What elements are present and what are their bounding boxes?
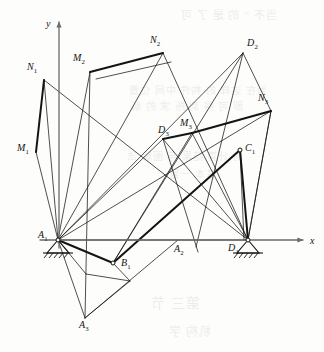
point-label-subscript: 1: [34, 67, 37, 74]
point-label-subscript: 1: [44, 235, 47, 242]
point-label-n1: N1: [27, 62, 37, 72]
ground-support-D1-hatch: [244, 253, 248, 258]
ground-support-D1-hatch: [254, 253, 258, 258]
line-N1-A1: [44, 80, 58, 240]
point-label-d3: D3: [158, 125, 169, 135]
point-label-m3: M3: [180, 118, 192, 128]
point-label-subscript: 3: [265, 98, 268, 105]
point-label-d1: D1: [228, 243, 239, 253]
point-label-subscript: 3: [165, 130, 168, 137]
link-A1-B1: [58, 240, 113, 263]
ground-support-D1-hatch: [249, 253, 253, 258]
point-label-n2: N2: [150, 35, 160, 45]
joint-marker-b1: [111, 261, 115, 265]
line-A1-A3: [58, 240, 85, 318]
y-axis-label: y: [46, 18, 50, 29]
line-D2-A1: [58, 53, 243, 240]
point-label-m1: M1: [17, 143, 29, 153]
point-label-b1: B1: [121, 258, 131, 268]
ground-support-A1-hatch: [54, 253, 58, 258]
point-label-subscript: 2: [254, 43, 257, 50]
ground-support-A1-hatch: [59, 253, 63, 258]
point-label-subscript: 1: [235, 248, 238, 255]
point-label-m2: M2: [73, 53, 85, 63]
point-label-base: C: [245, 142, 252, 153]
point-label-base: M: [73, 52, 81, 63]
line-A3-up: [85, 281, 130, 318]
link-M3-N3: [192, 111, 271, 133]
point-label-n3: N3: [258, 93, 268, 103]
line-N2-M2b: [96, 62, 171, 79]
thin-construction-lines: [36, 53, 271, 318]
line-M2-A1: [58, 72, 90, 240]
joint-marker-a1: [56, 238, 60, 242]
point-label-subscript: 1: [252, 148, 255, 155]
point-label-base: N: [258, 92, 265, 103]
joint-marker-c1: [238, 148, 242, 152]
x-axis-label: x: [310, 235, 314, 246]
line-N3-C1e: [248, 111, 271, 240]
point-label-base: N: [150, 34, 157, 45]
point-label-subscript: 1: [26, 148, 29, 155]
point-label-base: M: [180, 117, 188, 128]
linkage-diagram-svg: [0, 0, 324, 352]
ground-support-A1-hatch: [44, 253, 48, 258]
point-label-base: N: [27, 61, 34, 72]
point-label-c1: C1: [245, 143, 255, 153]
joint-marker-d1: [246, 238, 250, 242]
line-M1-A1: [36, 152, 58, 240]
point-label-subscript: 3: [189, 123, 192, 130]
ground-support-D1-hatch: [239, 253, 243, 258]
point-label-subscript: 2: [180, 249, 183, 256]
line-D3-A1: [58, 139, 163, 240]
link-M2-N2: [90, 53, 163, 72]
point-label-a3: A3: [79, 320, 89, 330]
point-label-base: M: [17, 142, 25, 153]
point-label-subscript: 2: [82, 58, 85, 65]
point-label-a1: A1: [38, 230, 48, 240]
line-N2-D1: [163, 53, 248, 240]
line-A1-N2: [58, 53, 163, 240]
line-fan2-b: [86, 274, 130, 281]
point-label-subscript: 1: [127, 263, 130, 270]
point-label-a2: A2: [174, 244, 184, 254]
line-M2-A3: [85, 72, 90, 318]
point-label-subscript: 2: [157, 40, 160, 47]
figure-root: 当不 ” 的 是 了 可为在 这样 的 构件 中间 位置即 可 得 到 所 求 …: [0, 0, 324, 352]
ground-support-A1-hatch: [49, 253, 53, 258]
line-D3-down: [163, 139, 198, 252]
link-N1-M1: [36, 80, 44, 152]
point-label-subscript: 3: [85, 325, 88, 332]
point-label-d2: D2: [247, 38, 258, 48]
ground-support-A1-hatch: [64, 253, 68, 258]
